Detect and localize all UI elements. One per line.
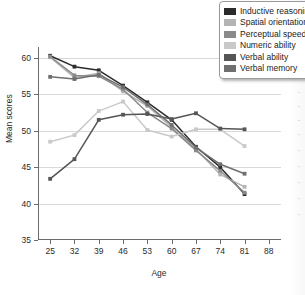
edge-mark <box>298 150 300 151</box>
chart-legend: Inductive reasoningSpatial orientationPe… <box>219 1 305 79</box>
legend-label: Verbal memory <box>240 64 297 73</box>
data-point-marker <box>145 128 149 132</box>
data-point-marker <box>170 117 174 121</box>
series-perceptual-speed <box>48 55 246 195</box>
data-point-marker <box>218 173 222 177</box>
legend-label: Spatial orientation <box>240 18 305 27</box>
data-point-marker <box>145 112 149 116</box>
x-tick-label: 74 <box>216 246 225 256</box>
data-point-marker <box>243 172 247 176</box>
edge-mark <box>298 166 300 167</box>
data-point-marker <box>121 85 125 89</box>
edge-mark <box>298 214 300 215</box>
x-tick <box>172 240 173 244</box>
legend-label: Verbal ability <box>240 53 288 62</box>
y-tick-label: 35 <box>22 235 31 245</box>
data-point-marker <box>121 113 125 117</box>
legend-item: Numeric ability <box>224 40 305 51</box>
data-point-marker <box>170 135 174 139</box>
data-point-marker <box>73 65 77 69</box>
x-tick <box>220 240 221 244</box>
edge-mark <box>298 106 300 107</box>
x-tick <box>99 240 100 244</box>
data-point-marker <box>48 75 52 79</box>
edge-mark <box>298 92 300 93</box>
legend-swatch-icon <box>224 42 236 49</box>
data-point-marker <box>170 123 174 127</box>
x-tick-label: 25 <box>45 246 54 256</box>
x-tick-label: 53 <box>143 246 152 256</box>
y-tick-label: 50 <box>22 126 31 136</box>
data-point-marker <box>48 177 52 181</box>
edge-mark <box>298 134 300 135</box>
chart-figure: Mean scores Age 354045505560 25323946536… <box>0 0 305 295</box>
x-tick-label: 60 <box>167 246 176 256</box>
data-point-marker <box>243 185 247 189</box>
x-tick-label: 46 <box>118 246 127 256</box>
y-tick-label: 55 <box>22 89 31 99</box>
y-tick-label: 60 <box>22 53 31 63</box>
legend-swatch-icon <box>224 65 236 72</box>
data-point-marker <box>243 144 247 148</box>
legend-swatch-icon <box>224 19 236 26</box>
x-tick-label: 81 <box>240 246 249 256</box>
plot-area: 354045505560 25323946536067748188 Induct… <box>38 47 281 240</box>
x-tick <box>50 240 51 244</box>
data-point-marker <box>218 162 222 166</box>
legend-item: Perceptual speed <box>224 29 305 40</box>
data-point-marker <box>243 191 247 195</box>
series-line <box>50 75 244 174</box>
data-point-marker <box>48 55 52 59</box>
data-point-marker <box>73 77 77 81</box>
data-point-marker <box>194 146 198 150</box>
data-point-marker <box>48 140 52 144</box>
data-point-marker <box>97 109 101 113</box>
y-axis-title: Mean scores <box>4 94 14 143</box>
legend-swatch-icon <box>224 8 236 15</box>
x-tick-label: 67 <box>191 246 200 256</box>
x-axis-title: Age <box>151 268 166 278</box>
legend-swatch-icon <box>224 54 236 61</box>
series-line <box>50 102 244 146</box>
series-verbal-memory <box>48 73 246 176</box>
x-tick <box>74 240 75 244</box>
y-tick-label: 40 <box>22 199 31 209</box>
data-point-marker <box>145 103 149 107</box>
legend-item: Spatial orientation <box>224 17 305 28</box>
data-point-marker <box>121 100 125 104</box>
x-tick-label: 88 <box>264 246 273 256</box>
x-tick <box>147 240 148 244</box>
data-point-marker <box>97 118 101 122</box>
data-point-marker <box>218 127 222 131</box>
legend-label: Inductive reasoning <box>240 7 305 16</box>
edge-mark <box>298 120 300 121</box>
legend-item: Verbal memory <box>224 63 305 74</box>
edge-mark <box>298 182 300 183</box>
data-point-marker <box>97 73 101 77</box>
data-point-marker <box>73 74 77 78</box>
y-tick <box>34 240 38 241</box>
legend-label: Perceptual speed <box>240 30 305 39</box>
data-point-marker <box>194 127 198 131</box>
legend-label: Numeric ability <box>240 41 296 50</box>
data-point-marker <box>243 127 247 131</box>
data-point-marker <box>194 111 198 115</box>
data-point-marker <box>73 157 77 161</box>
x-tick-label: 32 <box>70 246 79 256</box>
x-tick <box>269 240 270 244</box>
x-tick <box>245 240 246 244</box>
edge-mark <box>298 198 300 199</box>
data-point-marker <box>218 169 222 173</box>
x-tick <box>196 240 197 244</box>
legend-item: Inductive reasoning <box>224 6 305 17</box>
data-point-marker <box>170 127 174 131</box>
legend-swatch-icon <box>224 31 236 38</box>
x-tick-label: 39 <box>94 246 103 256</box>
y-tick-label: 45 <box>22 162 31 172</box>
x-tick <box>123 240 124 244</box>
data-point-marker <box>73 133 77 137</box>
legend-item: Verbal ability <box>224 52 305 63</box>
